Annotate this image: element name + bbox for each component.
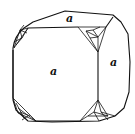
top-right-edge [106,17,113,27]
top-front-edge [28,27,78,28]
face-label-right: a [110,56,117,69]
corner-facets-top-right [78,27,106,52]
crystal-diagram: a a a [0,0,135,134]
face-label-top: a [66,12,73,25]
corner-facets-top-left [14,25,28,48]
face-label-front: a [50,65,57,78]
